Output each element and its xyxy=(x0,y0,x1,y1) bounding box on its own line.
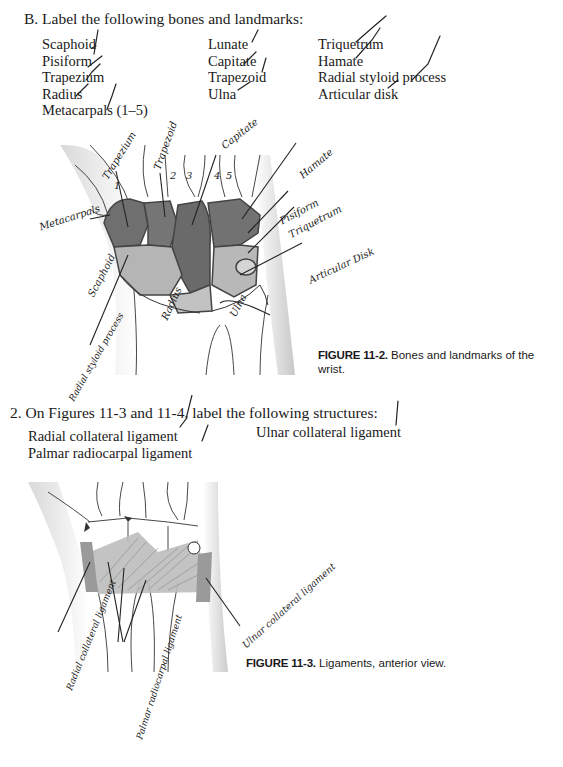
figure-11-2-label: FIGURE 11-2. xyxy=(318,349,388,361)
figure-11-2-illustration xyxy=(20,135,340,375)
figure-11-3-illustration xyxy=(28,482,268,672)
checkmarks-section-2 xyxy=(0,395,563,455)
handwritten-mc-3: 3 xyxy=(186,170,192,181)
figure-11-3-caption-text: Ligaments, anterior view. xyxy=(319,657,446,669)
figure-11-2-caption-line2: wrist. xyxy=(318,363,345,375)
figure-11-2-caption-line1: Bones and landmarks of the xyxy=(391,349,534,361)
figure-11-2-caption: FIGURE 11-2. Bones and landmarks of the … xyxy=(318,348,558,376)
figure-11-3-caption: FIGURE 11-3. Ligaments, anterior view. xyxy=(246,656,446,670)
handwritten-mc-2: 2 xyxy=(170,170,176,181)
handwritten-mc-5: 5 xyxy=(226,170,232,181)
figure-11-3-label: FIGURE 11-3. xyxy=(246,657,316,669)
handwritten-mc-1: 1 xyxy=(114,180,120,191)
checkmarks-section-b xyxy=(0,0,563,110)
handwritten-mc-4: 4 xyxy=(214,170,220,181)
